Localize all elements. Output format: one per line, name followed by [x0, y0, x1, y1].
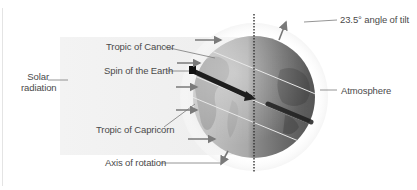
label-axis-of-rotation: Axis of rotation: [105, 157, 166, 168]
label-solar-line1: Solar: [21, 71, 49, 82]
label-tropic-of-capricorn: Tropic of Capricorn: [96, 124, 175, 135]
label-spin-of-earth: Spin of the Earth: [104, 65, 173, 76]
label-atmosphere: Atmosphere: [341, 85, 391, 96]
label-angle-of-tilt: 23.5° angle of tilt: [340, 14, 409, 25]
label-solar-line2: radiation: [21, 82, 49, 93]
label-solar-radiation: Solar radiation: [21, 71, 49, 93]
label-tropic-of-cancer: Tropic of Cancer: [106, 41, 174, 52]
